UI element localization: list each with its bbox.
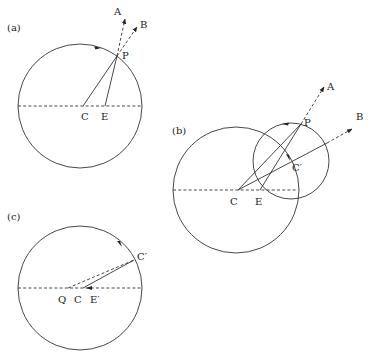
point-A-label: A bbox=[326, 81, 335, 92]
point-E-label: E bbox=[255, 196, 262, 207]
point-B-label: B bbox=[356, 111, 363, 122]
point-C-prime-label: C′ bbox=[137, 251, 148, 262]
point-C-label: C bbox=[230, 196, 238, 207]
point-C-label: C bbox=[74, 294, 82, 305]
line-CC-prime bbox=[83, 260, 134, 288]
line-CC-prime bbox=[238, 143, 327, 190]
line-QC-prime bbox=[68, 260, 134, 288]
point-P-label: P bbox=[304, 117, 311, 128]
arrow-E-prime-icon bbox=[86, 286, 92, 290]
point-C-label: C bbox=[81, 111, 89, 122]
panel-c-label: (c) bbox=[7, 211, 21, 222]
direction-arrow-icon bbox=[282, 122, 289, 125]
panel-c: (c) Q C E′ C′ bbox=[7, 211, 148, 350]
line-CP bbox=[238, 124, 301, 190]
point-E-prime-label: E′ bbox=[90, 294, 100, 305]
point-C-prime-label: C′ bbox=[292, 162, 303, 173]
panel-b-label: (b) bbox=[172, 125, 186, 136]
line-EP bbox=[260, 124, 301, 190]
panel-b: (b) C E P C′ A B bbox=[172, 81, 363, 253]
arrow-to-C-prime-icon bbox=[286, 154, 290, 161]
point-A-label: A bbox=[113, 6, 122, 17]
orbit-geometry-diagram: (a) C E P A B (b) C E P C′ bbox=[0, 0, 372, 359]
line-CP bbox=[83, 56, 117, 106]
line-EP bbox=[105, 56, 117, 106]
vector-B bbox=[327, 129, 352, 143]
point-E-label: E bbox=[101, 111, 108, 122]
point-P-label: P bbox=[122, 50, 129, 61]
panel-a: (a) C E P A B bbox=[7, 6, 147, 168]
panel-a-label: (a) bbox=[7, 22, 21, 33]
point-B-label: B bbox=[140, 19, 147, 30]
point-Q-label: Q bbox=[58, 294, 66, 305]
